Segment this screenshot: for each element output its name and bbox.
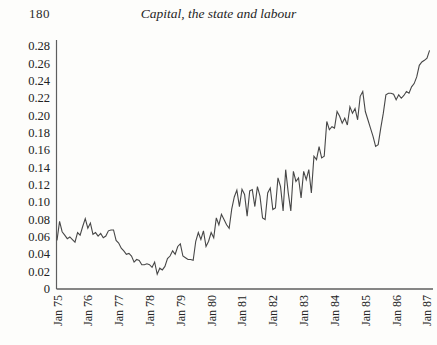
line-chart: 0.280.260.240.220.200.180.160.140.120.10…: [0, 0, 437, 345]
y-tick-label: 0.18: [28, 126, 50, 140]
x-tick-label: Jan 85: [359, 295, 373, 326]
axes: [57, 40, 434, 289]
x-tick-label: Jan 83: [297, 295, 311, 326]
y-tick-label: 0.26: [28, 57, 50, 71]
y-tick-label: 0.10: [28, 195, 50, 209]
y-tick-label: 0.16: [28, 143, 50, 157]
x-tick-label: Jan 82: [266, 295, 280, 326]
x-tick-label: Jan 78: [143, 295, 157, 326]
y-tick-label: 0.14: [28, 161, 51, 175]
y-tick-label: 0.22: [28, 91, 50, 105]
y-tick-label: 0.08: [28, 213, 50, 227]
y-tick-label: 0.02: [28, 265, 50, 279]
x-tick-label: Jan 80: [205, 295, 219, 326]
y-tick-label: 0: [44, 282, 50, 296]
x-tick-label: Jan 75: [51, 295, 65, 326]
x-tick-label: Jan 77: [112, 295, 126, 326]
x-tick-label: Jan 87: [420, 295, 434, 326]
x-axis-labels: Jan 75Jan 76Jan 77Jan 78Jan 79Jan 80Jan …: [51, 295, 435, 326]
x-tick-label: Jan 81: [235, 295, 249, 326]
y-axis-labels: 0.280.260.240.220.200.180.160.140.120.10…: [28, 39, 51, 296]
y-tick-label: 0.20: [28, 109, 50, 123]
x-tick-label: Jan 84: [328, 295, 342, 326]
y-tick-label: 0.04: [28, 247, 51, 261]
book-page: 180 Capital, the state and labour 0.280.…: [0, 0, 437, 345]
y-tick-label: 0.24: [28, 74, 51, 88]
y-tick-label: 0.28: [28, 39, 50, 53]
x-tick-label: Jan 79: [174, 295, 188, 326]
chart-canvas: 0.280.260.240.220.200.180.160.140.120.10…: [0, 0, 437, 345]
y-tick-label: 0.06: [28, 230, 50, 244]
x-tick-label: Jan 86: [390, 295, 404, 326]
x-tick-label: Jan 76: [81, 295, 95, 326]
y-tick-label: 0.12: [28, 178, 50, 192]
data-line: [57, 50, 430, 274]
